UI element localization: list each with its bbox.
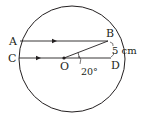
radius-ob (64, 41, 108, 58)
parallel-arrow-ab-icon (52, 39, 57, 43)
label-b: B (106, 27, 114, 40)
label-arc-length: 5 cm (112, 45, 137, 56)
label-a: A (8, 35, 18, 48)
label-d: D (111, 59, 120, 72)
circle (19, 6, 125, 112)
label-o: O (60, 60, 69, 73)
circle-diagram: A B C D O 5 cm 20° (0, 0, 146, 122)
parallel-arrow-cd-icon (36, 56, 41, 60)
angle-arc-icon (78, 53, 79, 58)
label-c: C (8, 52, 16, 65)
label-angle: 20° (81, 66, 98, 77)
